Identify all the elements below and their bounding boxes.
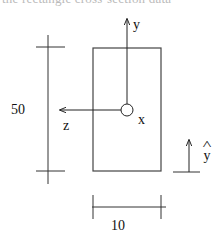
x-axis-circle-icon bbox=[121, 104, 133, 116]
x-axis-label: x bbox=[138, 113, 145, 127]
width-dimension-label: 10 bbox=[111, 219, 125, 233]
y-axis-label: y bbox=[133, 18, 140, 32]
cross-section-diagram bbox=[0, 0, 224, 240]
height-dimension-label: 50 bbox=[11, 103, 25, 117]
direction-indicator-label: ^ y bbox=[201, 141, 213, 163]
z-axis-label: z bbox=[63, 119, 69, 133]
hat-symbol: ^ bbox=[199, 141, 216, 149]
